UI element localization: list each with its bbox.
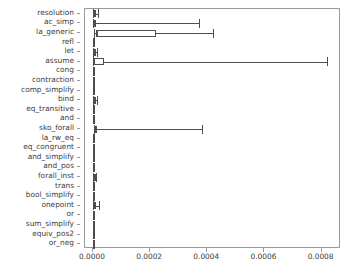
median-line — [93, 87, 94, 94]
x-tick-mark — [321, 248, 322, 252]
x-tick-label-2: 0.0004 — [193, 252, 219, 261]
plot-axes-area — [84, 8, 340, 248]
y-tick-mark — [77, 234, 81, 235]
median-line — [94, 97, 95, 104]
x-tick-label-4: 0.0008 — [308, 252, 334, 261]
y-tick-label-eq_transitive: eq_transitive — [26, 104, 74, 114]
median-line — [95, 10, 96, 17]
boxplot-figure: resolutionac_simpla_genericreflletassume… — [0, 0, 356, 275]
median-line — [94, 241, 95, 248]
y-tick-label-bind: bind — [58, 94, 74, 104]
y-tick-label-sko_forall: sko_forall — [39, 123, 74, 133]
median-line — [94, 174, 95, 181]
median-line — [93, 212, 94, 219]
median-line — [93, 183, 94, 190]
y-tick-mark — [77, 205, 81, 206]
whisker-high — [156, 33, 213, 34]
y-tick-mark — [77, 186, 81, 187]
median-line — [93, 231, 94, 238]
median-line — [94, 49, 95, 56]
median-line — [93, 135, 94, 142]
median-line — [93, 39, 94, 46]
median-line — [93, 193, 94, 200]
y-tick-mark — [77, 166, 81, 167]
median-line — [97, 30, 98, 37]
y-tick-label-onepoint: onepoint — [41, 200, 74, 210]
y-tick-label-let: let — [65, 46, 75, 56]
median-line — [94, 116, 95, 123]
y-tick-mark — [77, 138, 81, 139]
y-tick-mark — [77, 147, 81, 148]
y-tick-label-sum_simplify: sum_simplify — [26, 219, 74, 229]
y-tick-label-cong: cong — [56, 65, 74, 75]
y-tick-mark — [77, 128, 81, 129]
y-tick-label-bool_simplify: bool_simplify — [26, 190, 74, 200]
y-tick-mark — [77, 42, 81, 43]
y-tick-mark — [77, 224, 81, 225]
median-line — [95, 202, 96, 209]
y-tick-label-comp_simplify: comp_simplify — [21, 85, 74, 95]
y-tick-mark — [77, 90, 81, 91]
median-line — [93, 78, 94, 85]
y-tick-mark — [77, 32, 81, 33]
x-tick-mark — [92, 248, 93, 252]
median-line — [93, 164, 94, 171]
y-tick-label-and: and — [60, 113, 74, 123]
y-tick-mark — [77, 195, 81, 196]
y-tick-mark — [77, 51, 81, 52]
y-tick-mark — [77, 214, 81, 215]
median-line — [93, 145, 94, 152]
y-tick-label-la_generic: la_generic — [36, 27, 74, 37]
y-tick-label-eq_congruent: eq_congruent — [23, 142, 74, 152]
y-tick-mark — [77, 61, 81, 62]
x-tick-mark — [149, 248, 150, 252]
y-tick-label-trans: trans — [55, 181, 74, 191]
x-tick-label-1: 0.0002 — [136, 252, 162, 261]
y-tick-label-refl: refl — [62, 37, 74, 47]
y-tick-mark — [77, 80, 81, 81]
y-tick-mark — [77, 176, 81, 177]
whisker-high — [96, 23, 199, 24]
whisker-high — [104, 62, 327, 63]
y-tick-label-forall_inst: forall_inst — [38, 171, 74, 181]
y-tick-label-ac_simp: ac_simp — [44, 17, 74, 27]
y-tick-mark — [77, 118, 81, 119]
y-tick-label-assume: assume — [45, 56, 74, 66]
y-tick-label-equiv_pos2: equiv_pos2 — [32, 229, 74, 239]
whisker-high — [97, 129, 202, 130]
median-line — [95, 20, 96, 27]
y-tick-label-or_neg: or_neg — [49, 238, 74, 248]
x-tick-label-3: 0.0006 — [250, 252, 276, 261]
y-tick-mark — [77, 13, 81, 14]
median-line — [95, 126, 96, 133]
y-axis-tick-labels: resolutionac_simpla_genericreflletassume… — [0, 8, 80, 248]
y-tick-label-resolution: resolution — [37, 8, 74, 18]
x-tick-mark — [206, 248, 207, 252]
y-tick-mark — [77, 22, 81, 23]
y-tick-mark — [77, 157, 81, 158]
y-tick-mark — [77, 70, 81, 71]
y-tick-mark — [77, 243, 81, 244]
y-tick-label-or: or — [66, 209, 74, 219]
y-tick-label-and_pos: and_pos — [43, 161, 74, 171]
median-line — [93, 68, 94, 75]
y-tick-mark — [77, 99, 81, 100]
median-line — [93, 222, 94, 229]
boxplot-row-or_neg — [85, 239, 339, 250]
y-tick-label-la_rw_eq: la_rw_eq — [42, 133, 74, 143]
box-iqr — [94, 58, 105, 65]
y-tick-label-and_simplify: and_simplify — [28, 152, 74, 162]
median-line — [93, 106, 94, 113]
median-line — [94, 58, 95, 65]
box-iqr — [96, 30, 156, 37]
y-tick-label-contraction: contraction — [32, 75, 74, 85]
median-line — [93, 154, 94, 161]
x-tick-mark — [263, 248, 264, 252]
x-tick-label-0: 0.0000 — [79, 252, 105, 261]
y-tick-mark — [77, 109, 81, 110]
